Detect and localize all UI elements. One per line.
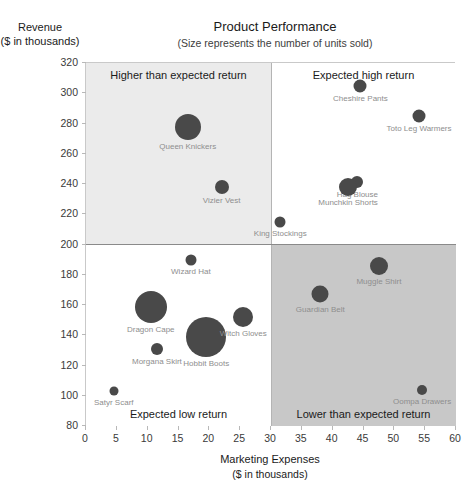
chart-subtitle: (Size represents the number of units sol…	[95, 36, 455, 50]
x-axis-tick-mark	[455, 426, 456, 430]
bubble-point[interactable]	[354, 79, 367, 92]
bubble-chart: Revenue ($ in thousands) Product Perform…	[0, 0, 476, 501]
bubble-point[interactable]	[339, 178, 357, 196]
y-axis-tick-mark	[82, 395, 86, 396]
x-axis-tick-label: 60	[435, 432, 475, 444]
y-axis-tick-label: 220	[38, 207, 78, 219]
y-axis-tick-label: 140	[38, 328, 78, 340]
x-axis-title: Marketing Expenses ($ in thousands)	[85, 452, 455, 482]
y-axis-tick-label: 320	[38, 56, 78, 68]
x-axis-tick-mark	[332, 426, 333, 430]
x-axis-tick-mark	[85, 426, 86, 430]
x-axis-tick-mark	[239, 426, 240, 430]
bubble-point[interactable]	[135, 291, 167, 323]
y-axis-tick-mark	[82, 244, 86, 245]
y-axis-tick-mark	[82, 334, 86, 335]
y-axis-tick-mark	[82, 274, 86, 275]
bubble-label: Wizard Hat	[171, 267, 211, 276]
bubble-point[interactable]	[185, 254, 196, 265]
y-axis-tick-label: 100	[38, 389, 78, 401]
quadrant-divider-horizontal	[86, 244, 456, 245]
bubble-point[interactable]	[275, 216, 286, 227]
bubble-label: Vizier Vest	[203, 196, 241, 205]
y-axis-tick-mark	[82, 183, 86, 184]
quadrant-top-left	[86, 63, 271, 244]
x-axis-tick-mark	[147, 426, 148, 430]
x-axis-tick-mark	[393, 426, 394, 430]
x-axis-tick-mark	[116, 426, 117, 430]
y-axis-tick-label: 120	[38, 359, 78, 371]
bubble-label: Toto Leg Warmers	[386, 124, 451, 133]
y-axis-title-label: Revenue	[0, 20, 80, 34]
bubble-point[interactable]	[312, 286, 329, 303]
y-axis-tick-label: 80	[38, 419, 78, 431]
bubble-label: Witch Gloves	[220, 329, 267, 338]
bubble-label: Munchkin Shorts	[318, 198, 378, 207]
bubble-label: Queen Knickers	[159, 142, 216, 151]
bubble-label: Cheshire Pants	[333, 94, 388, 103]
bubble-point[interactable]	[417, 385, 427, 395]
y-axis-tick-label: 200	[38, 238, 78, 250]
quadrant-label-bottom-right: Lower than expected return	[271, 408, 456, 420]
y-axis-tick-mark	[82, 304, 86, 305]
bubble-label: Hobbit Boots	[183, 359, 229, 368]
y-axis-tick-mark	[82, 365, 86, 366]
bubble-label: Satyr Scarf	[94, 398, 134, 407]
x-axis-tick-mark	[363, 426, 364, 430]
x-axis-title-units: ($ in thousands)	[85, 467, 455, 482]
bubble-label: King Stockings	[254, 229, 307, 238]
quadrant-label-bottom-left: Expected low return	[86, 408, 271, 420]
y-axis-tick-label: 240	[38, 177, 78, 189]
y-axis-tick-label: 260	[38, 147, 78, 159]
x-axis-tick-mark	[424, 426, 425, 430]
y-axis-tick-label: 280	[38, 117, 78, 129]
bubble-point[interactable]	[175, 114, 201, 140]
bubble-label: Oompa Drawers	[393, 397, 451, 406]
y-axis-tick-mark	[82, 123, 86, 124]
x-axis-tick-mark	[301, 426, 302, 430]
x-axis-tick-mark	[270, 426, 271, 430]
y-axis-tick-mark	[82, 92, 86, 93]
x-axis-tick-mark	[208, 426, 209, 430]
quadrant-label-top-left: Higher than expected return	[86, 69, 271, 81]
bubble-point[interactable]	[151, 343, 163, 355]
bubble-label: Muggle Shirt	[356, 277, 401, 286]
bubble-point[interactable]	[109, 387, 118, 396]
y-axis-title: Revenue ($ in thousands)	[0, 20, 80, 48]
plot-area: Higher than expected returnExpected high…	[85, 62, 455, 425]
y-axis-tick-label: 300	[38, 86, 78, 98]
bubble-label: Morgana Skirt	[132, 357, 182, 366]
bubble-point[interactable]	[370, 257, 388, 275]
bubble-label: Guardian Belt	[296, 305, 345, 314]
y-axis-tick-label: 180	[38, 268, 78, 280]
bubble-label: Dragon Cape	[127, 325, 175, 334]
y-axis-tick-label: 160	[38, 298, 78, 310]
x-axis-title-label: Marketing Expenses	[85, 452, 455, 467]
y-axis-tick-mark	[82, 153, 86, 154]
bubble-point[interactable]	[215, 180, 229, 194]
bubble-point[interactable]	[413, 109, 426, 122]
x-axis-tick-mark	[178, 426, 179, 430]
y-axis-title-units: ($ in thousands)	[0, 34, 80, 48]
bubble-point[interactable]	[233, 307, 253, 327]
y-axis-tick-mark	[82, 62, 86, 63]
y-axis-tick-mark	[82, 213, 86, 214]
chart-title: Product Performance	[95, 19, 455, 35]
